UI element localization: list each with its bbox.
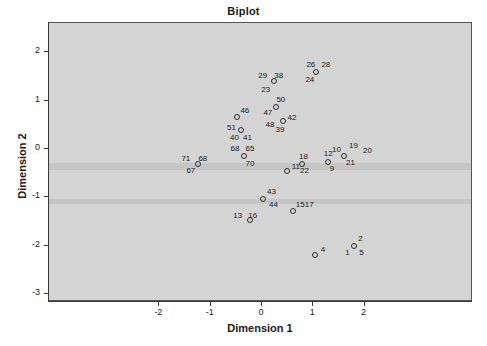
data-point-label: 51 bbox=[227, 124, 236, 132]
x-tick bbox=[210, 302, 211, 306]
data-point-label: 40 bbox=[230, 134, 239, 142]
x-axis-title: Dimension 1 bbox=[48, 322, 472, 334]
page-title: Biplot bbox=[0, 5, 487, 17]
x-tick bbox=[312, 302, 313, 306]
plot-area bbox=[48, 22, 472, 301]
data-point-label: 67 bbox=[186, 167, 195, 175]
data-point-label: 2 bbox=[358, 235, 362, 243]
data-point-marker bbox=[280, 118, 286, 124]
data-point-label: 39 bbox=[276, 126, 285, 134]
data-point-label: 10 bbox=[332, 146, 341, 154]
scan-artifact bbox=[49, 163, 471, 170]
data-point-marker bbox=[241, 153, 247, 159]
data-point-marker bbox=[284, 168, 290, 174]
data-point-label: 17 bbox=[305, 201, 314, 209]
y-axis-line bbox=[48, 22, 49, 302]
data-point-label: 68 bbox=[198, 155, 207, 163]
data-point-label: 50 bbox=[276, 96, 285, 104]
data-point-label: 65 bbox=[246, 145, 255, 153]
x-tick bbox=[158, 302, 159, 306]
data-point-label: 9 bbox=[330, 165, 334, 173]
x-tick-label: 2 bbox=[349, 307, 379, 317]
data-point-label: 21 bbox=[346, 159, 355, 167]
x-axis-line bbox=[48, 301, 472, 302]
y-tick bbox=[44, 51, 48, 52]
data-point-label: 22 bbox=[300, 167, 309, 175]
data-point-label: 29 bbox=[258, 72, 267, 80]
data-point-label: 71 bbox=[181, 155, 190, 163]
x-tick-label: 0 bbox=[246, 307, 276, 317]
y-tick bbox=[44, 245, 48, 246]
data-point-label: 44 bbox=[269, 201, 278, 209]
x-tick bbox=[364, 302, 365, 306]
data-point-label: 16 bbox=[248, 212, 257, 220]
data-point-label: 13 bbox=[233, 212, 242, 220]
data-point-label: 38 bbox=[274, 72, 283, 80]
data-point-label: 4 bbox=[321, 246, 325, 254]
data-point-label: 26 bbox=[306, 61, 315, 69]
data-point-label: 1 bbox=[345, 249, 349, 257]
x-tick-label: -1 bbox=[195, 307, 225, 317]
data-point-label: 19 bbox=[349, 142, 358, 150]
data-point-label: 48 bbox=[266, 121, 275, 129]
data-point-label: 18 bbox=[299, 153, 308, 161]
data-point-label: 68 bbox=[231, 145, 240, 153]
y-tick bbox=[44, 293, 48, 294]
data-point-label: 41 bbox=[243, 134, 252, 142]
data-point-label: 23 bbox=[261, 86, 270, 94]
data-point-label: 24 bbox=[305, 76, 314, 84]
data-point-label: 47 bbox=[263, 109, 272, 117]
y-tick bbox=[44, 196, 48, 197]
data-point-label: 28 bbox=[321, 61, 330, 69]
y-axis-title: Dimension 2 bbox=[16, 86, 28, 246]
data-point-label: 70 bbox=[246, 160, 255, 168]
y-tick-label: 2 bbox=[16, 45, 40, 55]
x-tick-label: 1 bbox=[297, 307, 327, 317]
data-point-label: 42 bbox=[288, 114, 297, 122]
x-tick-label: -2 bbox=[143, 307, 173, 317]
data-point-label: 46 bbox=[240, 107, 249, 115]
x-tick bbox=[261, 302, 262, 306]
y-tick bbox=[44, 148, 48, 149]
data-point-label: 5 bbox=[359, 249, 363, 257]
biplot-figure: Biplot -2-1012210-1-2-3 4215151713164344… bbox=[0, 0, 487, 346]
data-point-label: 43 bbox=[267, 188, 276, 196]
data-point-label: 15 bbox=[296, 201, 305, 209]
y-tick-label: -3 bbox=[16, 287, 40, 297]
y-tick bbox=[44, 100, 48, 101]
data-point-label: 20 bbox=[363, 147, 372, 155]
